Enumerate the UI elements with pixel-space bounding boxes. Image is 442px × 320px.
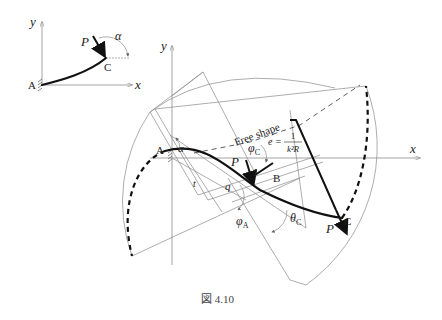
length-t-label: t <box>193 178 196 189</box>
main-diagram: y x A B C J P P Free shape α φC φA θC t … <box>122 38 420 285</box>
phi-C-arc <box>261 145 266 162</box>
force-J-label: P <box>230 154 239 169</box>
main-fixed-support-icon <box>168 150 172 162</box>
alpha-label: α <box>178 142 184 154</box>
inset-point-A: A <box>28 79 36 91</box>
main-y-label: y <box>159 38 167 53</box>
length-q-label: q <box>225 180 231 192</box>
beam-deflection-diagram: y x A C P α <box>0 0 442 320</box>
inset-force-arrow <box>93 36 104 55</box>
inset-alpha-label: α <box>115 29 122 43</box>
theta-C-label: θC <box>290 211 301 227</box>
left-dashed-arc <box>128 151 165 256</box>
inset-diagram: y x A C P α <box>28 14 141 92</box>
right-dashed-arc <box>342 86 368 218</box>
point-B-label: B <box>273 172 280 184</box>
inset-x-label: x <box>134 77 141 92</box>
construction-lines <box>122 72 377 285</box>
svg-text:1: 1 <box>291 131 296 141</box>
point-A-label: A <box>156 144 164 156</box>
phi-A-label: φA <box>236 214 249 230</box>
figure-caption: 図 4.10 <box>201 293 235 305</box>
inset-point-C: C <box>104 61 111 73</box>
svg-text:e =: e = <box>268 136 282 147</box>
force-C-label: P <box>325 221 334 236</box>
inset-beam-curve <box>42 58 106 85</box>
phi-C-label: φC <box>248 141 260 157</box>
inset-force-label: P <box>80 34 89 49</box>
point-C-label: C <box>344 215 351 227</box>
svg-text:k²R: k²R <box>287 144 300 154</box>
point-J-label: J <box>253 166 258 178</box>
inset-y-label: y <box>28 14 36 29</box>
main-x-label: x <box>409 141 416 156</box>
